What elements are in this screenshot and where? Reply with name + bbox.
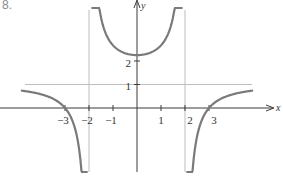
curve-left-branch [22,91,87,172]
x-tick-label: 3 [211,114,217,126]
y-tick-label: 1 [126,80,132,92]
x-tick-label: −2 [81,114,93,126]
axes [0,0,274,172]
x-axis-label: x [275,102,281,113]
graph: −3−2−112312xy [0,0,283,177]
asymptote-lines [25,10,252,172]
y-axis-label: y [140,0,146,11]
x-tick-label: −3 [57,114,69,126]
x-tick-label: 2 [187,114,193,126]
tick-labels: −3−2−112312xy [57,0,281,126]
x-tick-label: 1 [158,114,164,126]
curve-right-branch [187,91,252,172]
y-tick-label: 2 [126,57,132,69]
x-tick-label: −1 [105,114,117,126]
